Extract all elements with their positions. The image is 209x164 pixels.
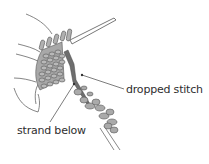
dropped-stitch-pointer — [82, 75, 124, 89]
strand-below-label: strand below — [17, 125, 86, 136]
knitted-fabric — [36, 29, 72, 90]
right-needle — [70, 18, 116, 44]
strand-below-pointer — [50, 84, 74, 122]
knitting-illustration — [0, 0, 209, 164]
dropped-stitch-label: dropped stitch — [126, 84, 203, 95]
